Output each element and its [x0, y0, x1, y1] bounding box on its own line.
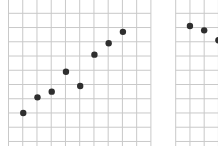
data-point	[34, 94, 40, 100]
data-point	[187, 23, 193, 29]
data-point	[91, 51, 97, 57]
data-point	[105, 40, 111, 46]
data-point	[20, 110, 26, 116]
right-plot-grid	[176, 0, 218, 146]
scatter-figure	[0, 0, 218, 146]
data-point	[77, 83, 83, 89]
data-point	[120, 29, 126, 35]
data-point	[215, 37, 218, 43]
data-point	[49, 88, 55, 94]
data-point	[63, 69, 69, 75]
left-plot-grid	[9, 0, 151, 146]
data-point	[201, 27, 207, 33]
right-plot-points	[187, 23, 218, 44]
